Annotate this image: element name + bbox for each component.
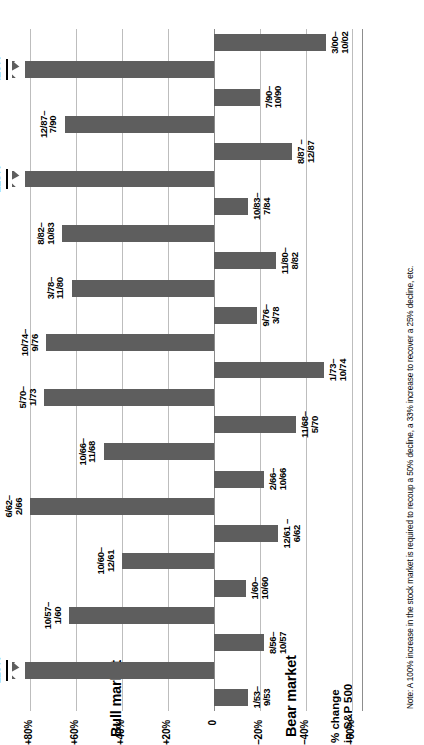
axis-tick-label: –40% (299, 720, 310, 745)
bar-bull[interactable] (30, 498, 214, 515)
axis-tick-label: +60% (69, 720, 80, 745)
bar-bull[interactable] (62, 225, 213, 242)
period-label-line-2: 2/66 (14, 495, 24, 517)
bar-period-label: 12/87–7/90 (39, 111, 58, 138)
period-label-line-2: 10/02 (340, 32, 350, 54)
period-label-line-2: 10/83 (46, 222, 56, 244)
period-label-line-2: 10/60 (260, 577, 270, 599)
plot-area: +80%+60%+40%+20%0–20%–40%–60%1/53–9/5311… (12, 29, 363, 711)
bar-bull[interactable] (12, 662, 214, 679)
chart-rotated-group: % changein S&P 500 Bull market Bear mark… (0, 0, 424, 745)
bar-period-label: 10/74–9/76 (20, 329, 39, 356)
bar-period-label: 10/83–7/84 (252, 193, 271, 220)
bar-period-label: 1/73–10/74 (328, 359, 347, 381)
bar-bear[interactable] (214, 525, 278, 542)
period-label-line-2: 10/90 (273, 86, 283, 108)
bar-value-label: 119% (0, 657, 2, 684)
bar-value-label: 128% (0, 165, 2, 192)
bar-bear[interactable] (214, 89, 260, 106)
bar-bull[interactable] (46, 334, 213, 351)
bar-bear[interactable] (214, 580, 246, 597)
bar-period-label: 6/62–2/66 (4, 495, 23, 517)
period-label-line-2: 7/90 (48, 111, 58, 138)
period-label-line-2: 10/66 (278, 468, 288, 490)
bar-bull[interactable] (44, 389, 214, 406)
chart-footnote: Note: A 100% increase in the stock marke… (406, 9, 416, 709)
bar-bear[interactable] (214, 198, 248, 215)
gridline (30, 29, 31, 711)
bar-bull[interactable] (12, 61, 214, 78)
bar-period-label: 10/66–11/68 (78, 438, 97, 465)
bar-period-label: 11/80–8/82 (280, 248, 299, 275)
bar-period-label: 1/53–9/53 (252, 686, 271, 708)
bar-value-label: 420% (0, 56, 2, 83)
period-label-line-2: 11/80 (55, 277, 65, 299)
bar-period-label: 8/56–10/57 (268, 632, 287, 654)
bar-bear[interactable] (214, 416, 297, 433)
period-label-line-2: 10/57 (278, 632, 288, 654)
bar-period-label: 9/76–3/78 (261, 304, 280, 326)
bar-bull[interactable] (72, 280, 214, 297)
bar-bear[interactable] (214, 471, 264, 488)
bar-bear[interactable] (214, 307, 258, 324)
bar-period-label: 8/82–10/83 (36, 222, 55, 244)
bar-bull[interactable] (65, 116, 214, 133)
period-label-line-2: 7/84 (262, 193, 272, 220)
bar-bull[interactable] (122, 553, 214, 570)
period-label-line-2: 3/78 (271, 304, 281, 326)
axis-tick-label: –20% (253, 720, 264, 745)
value-label-tick (6, 169, 8, 190)
axis-tick-label: –60% (345, 720, 356, 745)
period-label-line-2: 12/61 (106, 547, 116, 574)
axis-break-zigzag (9, 662, 25, 679)
period-label-line-2: 12/87 (306, 139, 316, 164)
bar-period-label: 1/60–10/60 (250, 577, 269, 599)
bar-period-label: 10/57–1/60 (43, 602, 62, 629)
bar-bear[interactable] (214, 362, 324, 379)
bar-bull[interactable] (12, 171, 214, 188)
bar-period-label: 11/68–5/70 (300, 411, 319, 438)
bar-bear[interactable] (214, 252, 276, 269)
gridline (352, 29, 353, 711)
bar-period-label: 7/90–10/90 (264, 86, 283, 108)
period-label-line-2: 1/73 (28, 386, 38, 408)
bar-period-label: 10/60–12/61 (96, 547, 115, 574)
bar-period-label: 5/70–1/73 (18, 386, 37, 408)
axis-break-zigzag (9, 171, 25, 188)
period-label-line-2: 8/82 (290, 248, 300, 275)
axis-tick-label: +40% (115, 720, 126, 745)
bar-period-label: 2/66–10/66 (268, 468, 287, 490)
value-label-tick (6, 660, 8, 681)
axis-tick-label: 0 (207, 720, 218, 725)
period-label-line-2: 6/62 (292, 519, 302, 549)
axis-tick-label: +80% (23, 720, 34, 745)
bar-bear[interactable] (214, 143, 292, 160)
period-label-line-2: 10/74 (338, 359, 348, 381)
value-label-tick (6, 59, 8, 80)
bar-period-label: 12/61 –6/62 (282, 519, 301, 549)
bar-bull[interactable] (69, 607, 214, 624)
period-label-line-2: 1/60 (53, 602, 63, 629)
axis-tick-label: +20% (161, 720, 172, 745)
bar-period-label: 3/78–11/80 (46, 277, 65, 299)
period-label-line-2: 9/76 (30, 329, 40, 356)
axis-baseline (362, 29, 363, 711)
period-label-line-2: 11/68 (87, 438, 97, 465)
period-label-line-2: 5/70 (310, 411, 320, 438)
bar-bear[interactable] (214, 634, 264, 651)
axis-break-zigzag (9, 61, 25, 78)
bar-bear[interactable] (214, 689, 248, 706)
bar-period-label: 3/00–10/02 (330, 32, 349, 54)
chart-canvas: % changein S&P 500 Bull market Bear mark… (0, 0, 424, 745)
bar-bull[interactable] (104, 443, 214, 460)
bar-period-label: 8/87 –12/87 (296, 139, 315, 164)
bar-bear[interactable] (214, 34, 326, 51)
period-label-line-2: 9/53 (262, 686, 272, 708)
